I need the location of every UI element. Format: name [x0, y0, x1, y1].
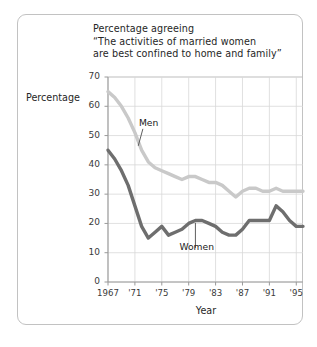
series-label-men: Men — [139, 117, 158, 128]
y-tick-50: 50 — [78, 130, 100, 140]
x-tick-1971: '71 — [121, 288, 149, 298]
x-tick-1991: '91 — [255, 288, 283, 298]
line-men — [108, 92, 303, 197]
y-tick-70: 70 — [78, 71, 100, 81]
y-tick-30: 30 — [78, 188, 100, 198]
figure-container: Percentage agreeing “The activities of m… — [0, 0, 317, 347]
y-tick-10: 10 — [78, 247, 100, 257]
y-tick-20: 20 — [78, 217, 100, 227]
y-tick-60: 60 — [78, 100, 100, 110]
x-tick-1983: '83 — [202, 288, 230, 298]
x-tick-1979: '79 — [175, 288, 203, 298]
x-tick-1975: '75 — [148, 288, 176, 298]
y-tick-40: 40 — [78, 159, 100, 169]
annotation-leaders — [138, 129, 195, 248]
x-tick-1995: '95 — [282, 288, 310, 298]
x-tick-1987: '87 — [228, 288, 256, 298]
series-label-women: Women — [179, 241, 214, 252]
y-tick-0: 0 — [78, 276, 100, 286]
x-tick-1967: 1967 — [94, 288, 122, 298]
